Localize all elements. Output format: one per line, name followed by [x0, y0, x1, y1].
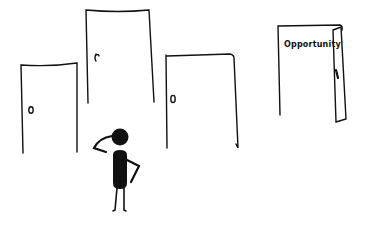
- illustration: [0, 0, 365, 232]
- door-1: [21, 63, 77, 153]
- door-2: [86, 10, 154, 103]
- door-knob-icon: [171, 95, 175, 102]
- door-knob-icon: [29, 107, 33, 113]
- door-handle-icon: [336, 70, 338, 78]
- door-knob-icon: [95, 54, 99, 61]
- stick-figure: [94, 129, 139, 212]
- door-sign-opportunity: Opportunity: [284, 40, 341, 49]
- door-3: [166, 54, 238, 148]
